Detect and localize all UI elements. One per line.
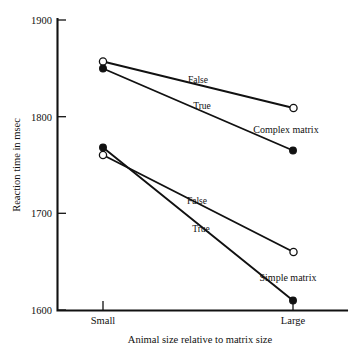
- datapoint-complex-false-small: [99, 58, 106, 65]
- datapoint-simple-false-large: [290, 248, 297, 255]
- x-tick-label-small: Small: [91, 315, 116, 326]
- y-tick-label-1700: 1700: [31, 208, 52, 219]
- y-axis-title: Reaction time in msec: [11, 118, 22, 212]
- group-label-complex-matrix: Complex matrix: [253, 124, 318, 135]
- datapoint-simple-true-large: [290, 297, 297, 304]
- x-axis-title: Animal size relative to matrix size: [128, 334, 273, 345]
- group-label-simple-matrix: Simple matrix: [260, 272, 317, 283]
- annotation-simple-true: True: [192, 224, 210, 234]
- chart-plot-area: 1900 1800 1700 1600 Small Large Animal s…: [0, 0, 363, 354]
- x-axis-ticks: [103, 301, 293, 310]
- y-axis-ticks: [58, 20, 66, 310]
- datapoint-complex-true-small: [100, 65, 107, 72]
- annotation-simple-false: False: [187, 196, 207, 206]
- x-tick-label-large: Large: [281, 315, 306, 326]
- chart-figure: 1900 1800 1700 1600 Small Large Animal s…: [0, 0, 363, 354]
- y-tick-label-1800: 1800: [31, 112, 52, 123]
- datapoint-simple-true-small: [100, 144, 107, 151]
- datapoint-complex-false-large: [290, 104, 297, 111]
- annotation-complex-true: True: [193, 101, 211, 111]
- y-tick-label-1600: 1600: [31, 305, 52, 316]
- datapoint-complex-true-large: [290, 147, 297, 154]
- annotation-complex-false: False: [188, 75, 208, 85]
- y-tick-label-1900: 1900: [31, 15, 52, 26]
- datapoint-simple-false-small: [99, 151, 106, 158]
